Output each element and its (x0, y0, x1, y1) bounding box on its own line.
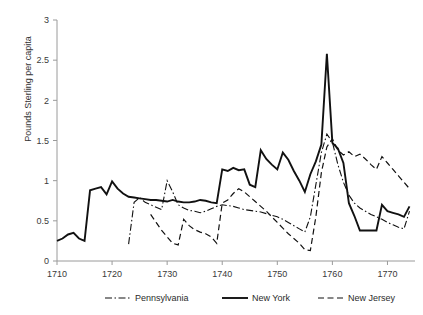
x-tick-label: 1710 (47, 269, 67, 279)
y-tick-label: 2.5 (36, 55, 49, 65)
line-chart: 00.511.522.53 17101720173017401750176017… (0, 0, 423, 315)
x-axis-ticks: 1710172017301740175017601770 (47, 261, 397, 279)
y-tick-label: 3 (44, 15, 49, 25)
y-tick-label: 2 (44, 96, 49, 106)
x-tick-label: 1730 (157, 269, 177, 279)
x-tick-label: 1750 (267, 269, 287, 279)
x-tick-label: 1770 (377, 269, 397, 279)
series-line-new-jersey (151, 139, 410, 251)
y-tick-label: 0 (44, 256, 49, 266)
legend-label-pennsylvania: Pennsylvania (135, 293, 189, 303)
y-tick-label: 0.5 (36, 216, 49, 226)
x-tick-label: 1760 (322, 269, 342, 279)
x-tick-label: 1720 (102, 269, 122, 279)
series-line-pennsylvania (129, 134, 410, 244)
y-axis-ticks: 00.511.522.53 (36, 15, 57, 266)
legend-label-new-jersey: New Jersey (348, 293, 396, 303)
y-tick-label: 1 (44, 176, 49, 186)
chart-legend: PennsylvaniaNew YorkNew Jersey (105, 293, 396, 303)
chart-container: Pounds Sterling per capita 00.511.522.53… (0, 0, 423, 315)
x-tick-label: 1740 (212, 269, 232, 279)
legend-label-new-york: New York (252, 293, 291, 303)
data-series-group (57, 54, 409, 251)
y-tick-label: 1.5 (36, 136, 49, 146)
series-line-new-york (57, 54, 409, 241)
